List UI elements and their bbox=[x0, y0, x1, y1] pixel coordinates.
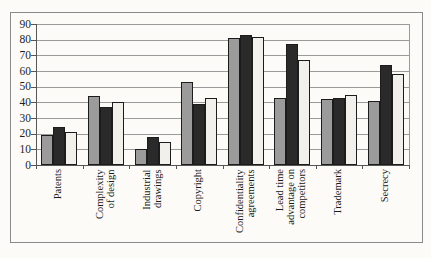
y-axis-tick-label: 20 bbox=[5, 127, 31, 140]
gridline bbox=[36, 55, 409, 56]
bar-series-black-cat5 bbox=[286, 44, 298, 165]
bar-series-black-cat0 bbox=[53, 127, 65, 165]
y-axis-tick-label: 60 bbox=[5, 65, 31, 78]
category-label: Copyright bbox=[192, 169, 206, 239]
bar-series-light-cat6 bbox=[345, 95, 357, 166]
bar-series-gray-cat6 bbox=[321, 99, 333, 165]
gridline bbox=[36, 40, 409, 41]
y-axis-tick-label: 30 bbox=[5, 112, 31, 125]
x-axis-tick bbox=[362, 165, 363, 169]
category-label: Confidentiality agreements bbox=[233, 169, 258, 239]
x-axis-tick bbox=[83, 165, 84, 169]
plot-right-border bbox=[409, 24, 410, 165]
bar-series-gray-cat3 bbox=[181, 82, 193, 165]
x-axis-tick bbox=[316, 165, 317, 169]
category-label: Patents bbox=[52, 169, 66, 239]
bar-series-gray-cat0 bbox=[41, 135, 53, 165]
category-label: Trademark bbox=[332, 169, 346, 239]
bar-series-black-cat4 bbox=[240, 35, 252, 165]
x-axis-tick bbox=[223, 165, 224, 169]
category-label: Complexity of design bbox=[93, 169, 118, 239]
bar-series-black-cat6 bbox=[333, 98, 345, 165]
category-label: Industrial drawings bbox=[140, 169, 165, 239]
y-axis-tick-label: 90 bbox=[5, 18, 31, 31]
bar-series-gray-cat1 bbox=[88, 96, 100, 165]
bar-chart-figure: 9080706050403020100PatentsComplexity of … bbox=[0, 0, 431, 258]
y-axis-tick-label: 70 bbox=[5, 49, 31, 62]
gridline bbox=[36, 71, 409, 72]
x-axis-tick bbox=[269, 165, 270, 169]
bar-series-black-cat2 bbox=[147, 137, 159, 165]
x-axis-tick bbox=[129, 165, 130, 169]
bar-series-light-cat1 bbox=[112, 102, 124, 165]
bar-series-light-cat4 bbox=[252, 37, 264, 166]
bar-series-black-cat1 bbox=[100, 107, 112, 165]
bar-series-gray-cat2 bbox=[135, 149, 147, 165]
category-label: Secrecy bbox=[379, 169, 393, 239]
bar-series-light-cat5 bbox=[298, 60, 310, 165]
bar-series-light-cat3 bbox=[205, 98, 217, 165]
bar-series-light-cat0 bbox=[65, 132, 77, 165]
bar-series-light-cat7 bbox=[392, 74, 404, 165]
y-axis-tick-label: 10 bbox=[5, 143, 31, 156]
bar-series-light-cat2 bbox=[159, 142, 171, 166]
y-axis-line bbox=[36, 24, 37, 165]
y-axis-tick-label: 0 bbox=[5, 159, 31, 172]
x-axis-tick bbox=[36, 165, 37, 169]
gridline bbox=[36, 87, 409, 88]
x-axis-tick bbox=[176, 165, 177, 169]
category-label: Lead time advantage on competitors bbox=[274, 169, 310, 239]
bar-series-gray-cat4 bbox=[228, 38, 240, 165]
bar-series-black-cat3 bbox=[193, 104, 205, 165]
y-axis-tick-label: 80 bbox=[5, 33, 31, 46]
x-axis-tick bbox=[409, 165, 410, 169]
bar-series-gray-cat5 bbox=[274, 98, 286, 165]
y-axis-tick-label: 40 bbox=[5, 96, 31, 109]
gridline bbox=[36, 24, 409, 25]
bar-series-black-cat7 bbox=[380, 65, 392, 165]
bar-series-gray-cat7 bbox=[368, 101, 380, 165]
y-axis-tick-label: 50 bbox=[5, 80, 31, 93]
